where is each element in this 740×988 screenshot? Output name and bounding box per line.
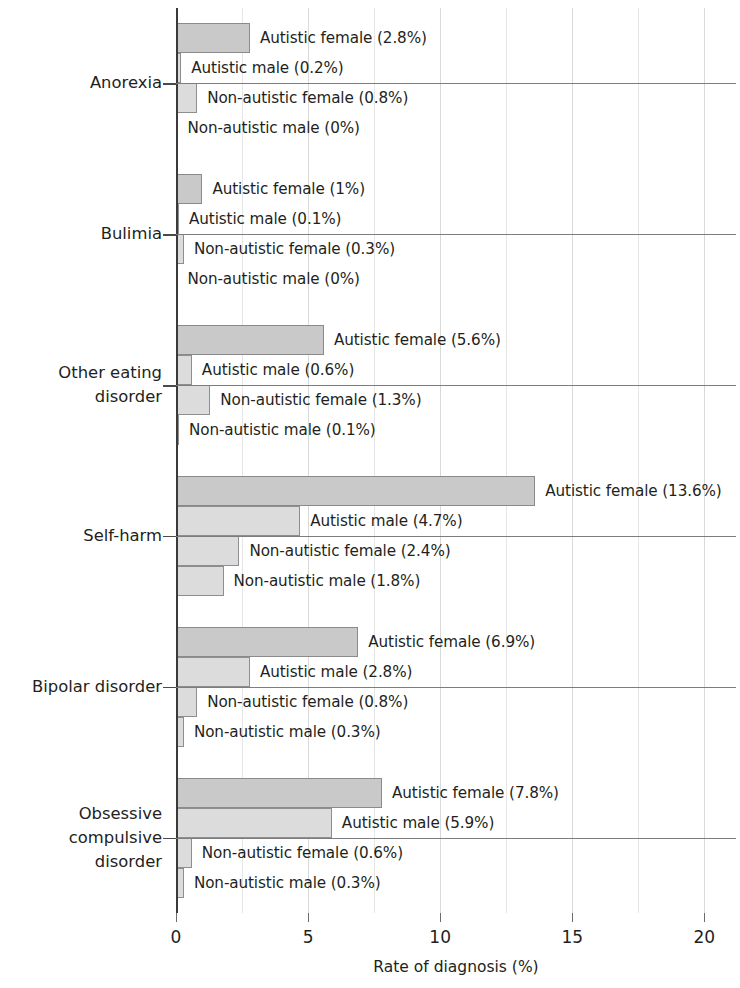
x-tick: [704, 913, 705, 922]
x-tick-label: 15: [561, 927, 583, 947]
category-label: Bipolar disorder: [0, 675, 162, 699]
x-tick: [308, 913, 309, 922]
x-tick: [572, 913, 573, 922]
x-tick: [176, 913, 177, 922]
x-tick-label: 0: [171, 927, 182, 947]
category-tick: [163, 83, 176, 85]
category-label: Obsessive compulsive disorder: [0, 802, 162, 874]
category-baseline: [176, 536, 736, 537]
x-tick: [440, 913, 441, 922]
category-tick: [163, 687, 176, 689]
category-labels: AnorexiaBulimiaOther eating disorderSelf…: [0, 8, 162, 913]
x-tick-label: 5: [303, 927, 314, 947]
category-baseline: [176, 687, 736, 688]
category-tick: [163, 838, 176, 840]
x-axis-ticks: 05101520: [176, 913, 736, 925]
category-label: Anorexia: [0, 71, 162, 95]
category-baseline: [176, 838, 736, 839]
x-axis-title: Rate of diagnosis (%): [176, 958, 736, 976]
x-tick-label: 20: [693, 927, 715, 947]
category-label: Self-harm: [0, 524, 162, 548]
category-tick: [163, 234, 176, 236]
category-baseline: [176, 385, 736, 386]
category-baseline: [176, 83, 736, 84]
category-label: Bulimia: [0, 222, 162, 246]
category-label: Other eating disorder: [0, 361, 162, 409]
chart-figure: Autistic female (2.8%)Autistic male (0.2…: [0, 0, 740, 988]
category-tick: [163, 385, 176, 387]
category-tick: [163, 536, 176, 538]
x-tick-label: 10: [429, 927, 451, 947]
category-baseline: [176, 234, 736, 235]
